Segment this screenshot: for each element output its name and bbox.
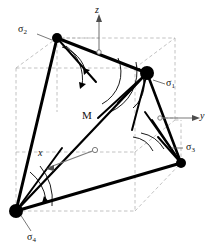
arrowhead-y [192, 115, 200, 121]
angle-arc-sigma3-a [133, 137, 153, 151]
leader-sigma4 [20, 214, 31, 231]
arrowhead-sigma2-b [79, 82, 86, 89]
angle-arc-sigma2-top [62, 47, 86, 73]
axis-construction-lines [57, 38, 180, 118]
origin-marker-y [158, 116, 162, 120]
axis-arrowheads [46, 14, 200, 171]
arrowhead-z [96, 14, 102, 22]
node-sigma1 [140, 66, 154, 80]
center-marker-m [92, 147, 97, 152]
node-sigma3 [176, 158, 186, 168]
tetrahedron-diagram [0, 0, 209, 249]
label-sigma-2: σ2 [18, 24, 27, 36]
node-sigma2 [52, 33, 62, 43]
label-axis-y: y [200, 111, 204, 121]
node-sigma4 [9, 204, 23, 218]
origin-marker-z [97, 50, 101, 54]
stub-sigma3-c [158, 137, 181, 163]
label-sigma-4: σ4 [27, 232, 36, 244]
label-sigma-1: σ1 [166, 78, 175, 90]
leader-sigma1 [153, 80, 165, 84]
label-center-m: M [82, 110, 92, 121]
leader-sigma2 [37, 34, 52, 40]
cube-edge-top-front-right [135, 38, 175, 68]
edge-sigma4-sigma3 [16, 163, 181, 211]
label-sigma-3: σ3 [186, 142, 195, 154]
label-axis-x: x [38, 148, 42, 158]
figure-canvas: σ2 σ1 σ3 σ4 M z y x [0, 0, 209, 249]
angle-arc-sigma1-left [102, 58, 121, 104]
label-axis-z: z [95, 5, 99, 15]
angle-arc-sigma4-a [30, 172, 46, 200]
